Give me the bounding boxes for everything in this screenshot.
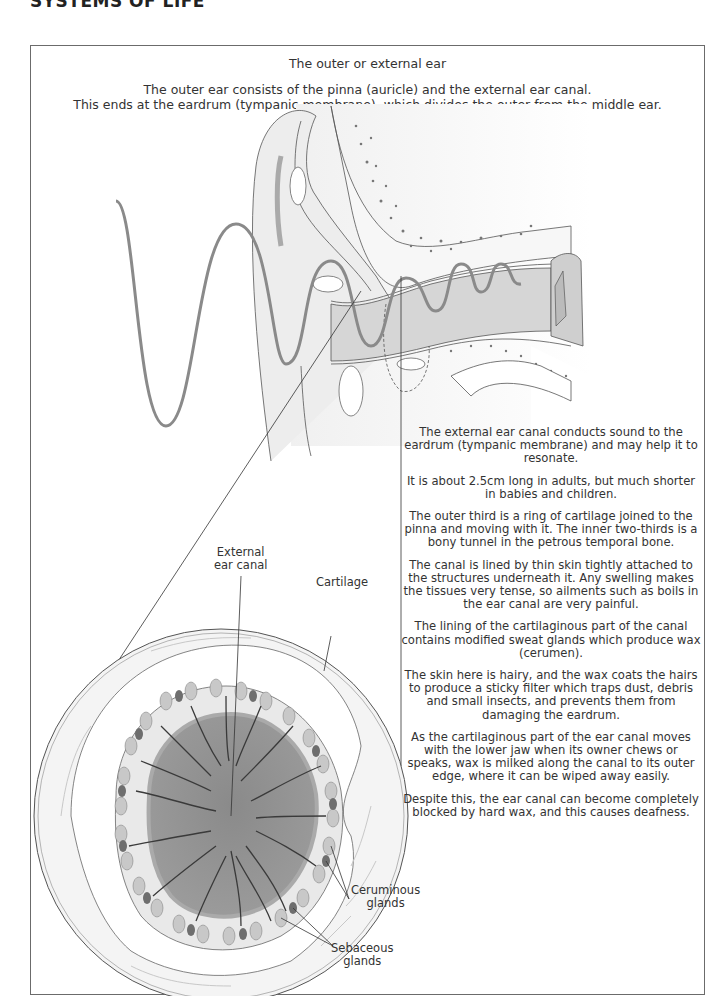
paragraph: The external ear canal conducts sound to… xyxy=(401,426,701,466)
label-ceruminous-glands: Ceruminous glands xyxy=(351,884,420,910)
head-section xyxy=(252,104,591,461)
paragraph: As the cartilaginous part of the ear can… xyxy=(401,731,701,784)
paragraph: It is about 2.5cm long in adults, but mu… xyxy=(401,475,701,501)
paragraph: The skin here is hairy, and the wax coat… xyxy=(401,669,701,722)
paragraph: The lining of the cartilaginous part of … xyxy=(401,620,701,660)
paragraph: The canal is lined by thin skin tightly … xyxy=(401,559,701,612)
paragraph: The outer third is a ring of cartilage j… xyxy=(401,510,701,550)
content-frame: The outer or external ear The outer ear … xyxy=(30,45,705,995)
label-external-ear-canal: External ear canal xyxy=(214,546,267,572)
page-header: SYSTEMS OF LIFE xyxy=(30,0,205,11)
paragraph: Despite this, the ear canal can become c… xyxy=(401,793,701,819)
label-cartilage: Cartilage xyxy=(316,576,368,589)
label-sebaceous-glands: Sebaceous glands xyxy=(331,942,393,968)
body-text-column: The external ear canal conducts sound to… xyxy=(401,426,701,828)
